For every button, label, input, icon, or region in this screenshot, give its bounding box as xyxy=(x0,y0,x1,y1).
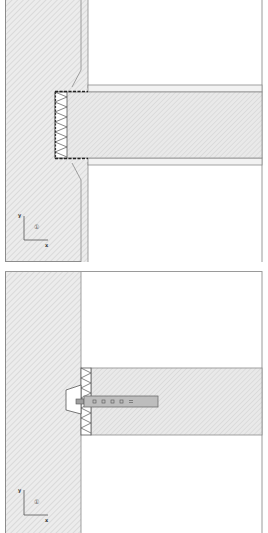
top-panel: y x ① xyxy=(5,0,262,262)
top-band xyxy=(88,85,262,92)
construction-detail-drawing: y x ① xyxy=(0,0,268,533)
view-marker: ① xyxy=(34,223,39,230)
connector-plate xyxy=(84,396,158,407)
horizontal-beam xyxy=(55,92,262,158)
connector-stub xyxy=(76,399,84,404)
diagram-canvas: y x ① xyxy=(0,0,268,533)
bottom-panel: y x ① xyxy=(5,271,262,533)
view-marker: ① xyxy=(34,498,39,505)
bottom-band xyxy=(88,158,262,165)
